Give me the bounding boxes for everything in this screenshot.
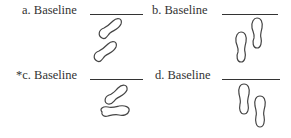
option-label: Baseline: [34, 68, 77, 82]
footprint-lower: [101, 106, 129, 117]
option-label: Baseline: [165, 3, 208, 17]
footprint-left: [236, 32, 246, 62]
option-letter: a.: [22, 3, 31, 17]
footprints-icon-c: [96, 82, 136, 122]
option-d-label: d. Baseline: [155, 68, 211, 82]
option-d-blank-line[interactable]: [222, 79, 280, 80]
footprint-upper: [105, 85, 127, 104]
footprint-right: [252, 18, 262, 48]
option-letter: d.: [155, 68, 164, 82]
footprint-upper: [99, 19, 121, 39]
option-c-blank-line[interactable]: [90, 79, 143, 80]
option-letter: b.: [152, 3, 161, 17]
option-c-label: *c. Baseline: [16, 68, 77, 82]
footprints-icon-a: [90, 16, 130, 66]
option-b-label: b. Baseline: [152, 3, 208, 17]
option-a-blank-line[interactable]: [90, 14, 143, 15]
footprints-icon-d: [234, 82, 270, 130]
footprint-left: [239, 84, 250, 114]
option-label: Baseline: [34, 3, 77, 17]
option-a-label: a. Baseline: [22, 3, 77, 17]
option-letter: c.: [22, 68, 31, 82]
footprint-right: [255, 96, 266, 127]
footprints-icon-b: [232, 16, 268, 66]
footprint-lower: [94, 42, 116, 62]
option-label: Baseline: [168, 68, 211, 82]
option-b-blank-line[interactable]: [222, 14, 278, 15]
